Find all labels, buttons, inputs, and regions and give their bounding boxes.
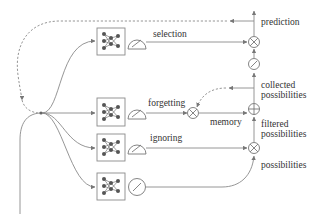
selection-network-box	[97, 28, 125, 55]
branch-to-ignoring	[42, 113, 95, 148]
forgetting-network-box	[97, 98, 125, 126]
memory-feedback-loop	[197, 88, 226, 107]
prediction-feedback-loop-tail	[22, 100, 38, 113]
ignoring-multiply-icon	[249, 143, 260, 154]
collected-label-line1: collected	[261, 80, 296, 90]
ignoring-network-box	[97, 134, 125, 161]
branch-to-possibilities	[42, 113, 95, 187]
prediction-label: prediction	[261, 17, 300, 27]
selection-label: selection	[153, 29, 187, 39]
lstm-diagram: selection forgetting memory ignoring p	[0, 0, 321, 214]
possibilities-network-box	[97, 173, 125, 200]
possibilities-label: possibilities	[261, 160, 307, 170]
forgetting-label: forgetting	[148, 98, 186, 108]
ignoring-label: ignoring	[150, 133, 182, 143]
memory-label: memory	[210, 117, 242, 127]
forgetting-multiply-icon	[188, 108, 199, 119]
output-squash-icon	[249, 59, 260, 70]
possibilities-squash-icon	[129, 179, 146, 196]
filtered-label-line2: possibilities	[261, 129, 307, 139]
ignoring-squash-icon	[128, 145, 146, 154]
forgetting-squash-icon	[128, 110, 146, 119]
filtered-label-line1: filtered	[261, 119, 289, 129]
input-line	[20, 113, 40, 214]
collected-label-line2: possibilities	[261, 90, 307, 100]
selection-squash-icon	[128, 40, 146, 49]
branch-to-selection	[42, 41, 95, 113]
memory-add-icon	[249, 104, 260, 115]
selection-multiply-icon	[249, 37, 260, 48]
possibilities-line	[146, 156, 254, 187]
